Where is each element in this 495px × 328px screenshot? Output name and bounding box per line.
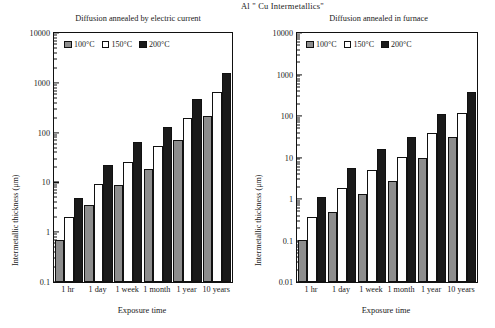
bar-group [54,33,84,282]
legend-label: 100°C [74,40,95,49]
plot-area: 0.1110100100010000 [53,32,233,283]
x-axis-tick-label: 1 week [112,285,142,294]
x-axis-tick-label: 1 day [326,285,356,294]
bar [74,198,84,282]
y-axis-tick-label: 0.1 [283,236,297,245]
y-axis-tick-label: 1 [289,195,297,204]
panel-title: Diffusion annealed in furnace [248,14,495,23]
legend-swatch [306,41,314,49]
bar [163,127,173,282]
y-axis-tick-label: 0.1 [40,278,54,287]
x-axis-tick-label: 1 year [416,285,446,294]
bar [328,212,338,282]
bar [427,133,437,282]
legend-swatch [64,41,72,49]
x-axis-tick-label: 1 day [83,285,113,294]
bar-group [297,33,327,282]
bar [173,140,183,282]
x-axis-tick-label: 10 years [201,285,231,294]
figure: Al " Cu Intermetallics" Diffusion anneal… [0,0,495,328]
legend-swatch [139,41,147,49]
y-axis-tick-label: 100 [38,128,54,137]
bar [388,181,398,282]
chart-panel-electric-current: Diffusion annealed by electric current I… [0,14,252,328]
legend-item: 200°C [139,40,170,49]
bar [437,114,447,282]
y-axis-tick-label: 10000 [273,29,297,38]
legend-label: 150°C [354,40,375,49]
y-axis-tick-label: 100 [281,112,297,121]
x-axis-tick-label: 1 year [172,285,202,294]
legend-swatch [102,41,110,49]
bar [457,113,467,282]
y-axis-label: Intermetallic thickness (μm) [11,174,20,266]
bar [94,184,104,282]
bar-group [84,33,114,282]
chart-panel-furnace: Diffusion annealed in furnace Intermetal… [248,14,495,328]
x-axis-tick-labels: 1 hr1 day1 week1 month1 year10 years [53,285,231,294]
y-axis-tick-label: 1 [46,228,54,237]
bar [467,92,477,282]
bar-group [202,33,232,282]
bar [192,99,202,282]
bar-groups [297,33,477,282]
y-axis-tick-label: 1000 [277,70,297,79]
figure-main-title: Al " Cu Intermetallics" [0,1,495,11]
y-axis-tick-label: 0.01 [279,278,297,287]
bar-group [173,33,203,282]
bar-group [447,33,477,282]
bar [418,158,428,283]
bar [337,188,347,282]
plot-area: 0.010.1110100100010000 [296,32,478,283]
bar [103,165,113,282]
bar-group [143,33,173,282]
bar [183,118,193,282]
x-axis-tick-label: 1 month [386,285,416,294]
bar [153,146,163,282]
x-axis-tick-label: 1 hr [53,285,83,294]
bar [64,217,74,282]
legend-swatch [344,41,352,49]
bar [307,217,317,282]
bar [212,92,222,282]
bar [317,197,327,282]
bar [448,137,458,282]
legend-item: 150°C [102,40,133,49]
x-axis-tick-labels: 1 hr1 day1 week1 month1 year10 years [296,285,476,294]
legend: 100°C150°C200°C [64,40,170,49]
bar [55,240,65,282]
y-axis-tick-label: 10000 [30,29,54,38]
bar-group [113,33,143,282]
bar [222,73,232,282]
bar [407,137,417,282]
legend-item: 100°C [64,40,95,49]
x-axis-tick-label: 1 week [356,285,386,294]
bar [347,168,357,282]
panel-title: Diffusion annealed by electric current [0,14,252,23]
bar [203,116,213,282]
y-axis-label: Intermetallic thickness (μm) [254,174,263,266]
legend: 100°C150°C200°C [306,40,412,49]
legend-label: 200°C [149,40,170,49]
bar-groups [54,33,232,282]
y-axis-tick-label: 10 [42,178,54,187]
legend-label: 200°C [391,40,412,49]
x-axis-tick-label: 1 month [142,285,172,294]
bar [144,169,154,282]
legend-item: 150°C [344,40,375,49]
bar [298,240,308,282]
legend-label: 150°C [112,40,133,49]
bar [397,157,407,282]
y-axis-tick-label: 1000 [34,78,54,87]
bar-group [357,33,387,282]
bar-group [327,33,357,282]
bar [114,185,124,282]
legend-item: 100°C [306,40,337,49]
x-axis-tick-label: 1 hr [296,285,326,294]
y-axis-tick-label: 10 [285,153,297,162]
bar-group [387,33,417,282]
bar [123,162,133,282]
bar [358,194,368,282]
bar [377,149,387,282]
x-axis-tick-label: 10 years [446,285,476,294]
